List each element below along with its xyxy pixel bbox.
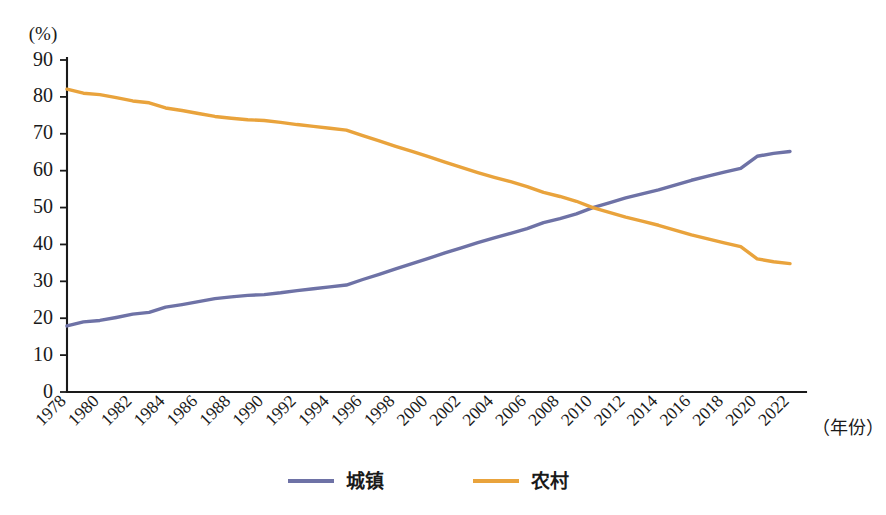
series-line-rural bbox=[67, 89, 790, 263]
x-axis-title: （年份） bbox=[812, 418, 884, 438]
chart-container: 0102030405060708090 19781980198219841986… bbox=[0, 0, 886, 515]
x-axis-tick-group: 1978198019821984198619881990199219941996… bbox=[31, 391, 793, 430]
x-axis-tick-label: 2018 bbox=[688, 391, 727, 430]
x-axis-tick-label: 1996 bbox=[327, 391, 366, 430]
x-axis-tick-label: 1984 bbox=[130, 391, 169, 430]
y-axis-unit-label: (%) bbox=[29, 23, 57, 45]
x-axis-tick-label: 1982 bbox=[97, 391, 136, 430]
x-axis-tick-label: 2014 bbox=[622, 391, 661, 430]
y-axis-tick-group: 0102030405060708090 bbox=[33, 48, 67, 402]
y-axis-tick-label: 40 bbox=[33, 232, 53, 254]
y-axis-tick-label: 90 bbox=[33, 48, 53, 70]
x-axis-tick-label: 2022 bbox=[754, 391, 793, 430]
x-axis-tick-label: 2012 bbox=[590, 391, 629, 430]
chart-legend: 城镇农村 bbox=[288, 470, 569, 492]
series-line-urban bbox=[67, 151, 790, 325]
x-axis-tick-label: 2010 bbox=[557, 391, 596, 430]
x-axis-tick-label: 1986 bbox=[162, 391, 201, 430]
x-axis-tick-label: 2006 bbox=[491, 391, 530, 430]
x-axis-tick-label: 1994 bbox=[294, 391, 333, 430]
y-axis-tick-label: 50 bbox=[33, 195, 53, 217]
y-axis-tick-label: 10 bbox=[33, 343, 53, 365]
y-axis-tick-label: 30 bbox=[33, 269, 53, 291]
x-axis-tick-label: 2004 bbox=[458, 391, 497, 430]
legend-label: 城镇 bbox=[346, 470, 384, 492]
x-axis-tick-label: 2000 bbox=[392, 391, 431, 430]
x-axis-tick-label: 2002 bbox=[425, 391, 464, 430]
x-axis-tick-label: 1990 bbox=[228, 391, 267, 430]
x-axis-tick-label: 1988 bbox=[195, 391, 234, 430]
x-axis-tick-label: 1980 bbox=[64, 391, 103, 430]
x-axis-tick-label: 2016 bbox=[655, 391, 694, 430]
x-axis-tick-label: 1992 bbox=[261, 391, 300, 430]
legend-label: 农村 bbox=[530, 470, 569, 492]
x-axis-tick-label: 1978 bbox=[31, 391, 70, 430]
x-axis-tick-label: 2008 bbox=[524, 391, 563, 430]
x-axis-tick-label: 2020 bbox=[721, 391, 760, 430]
y-axis-tick-label: 60 bbox=[33, 158, 53, 180]
y-axis-tick-label: 20 bbox=[33, 306, 53, 328]
y-axis-tick-label: 70 bbox=[33, 121, 53, 143]
line-chart: 0102030405060708090 19781980198219841986… bbox=[0, 0, 886, 515]
x-axis-tick-label: 1998 bbox=[360, 391, 399, 430]
series-group bbox=[67, 89, 790, 326]
y-axis-tick-label: 80 bbox=[33, 84, 53, 106]
